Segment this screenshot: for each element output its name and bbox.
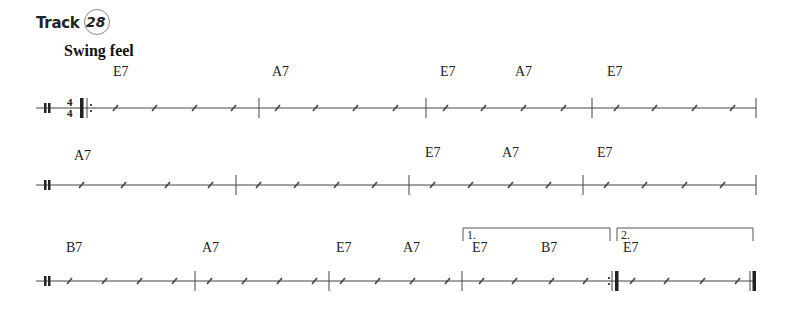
second-ending-bracket (617, 228, 753, 241)
final-barline-icon (753, 271, 757, 291)
first-ending-bracket (463, 228, 610, 241)
staff-system-1: 4 4 (36, 96, 756, 119)
time-sig-bottom: 4 (67, 107, 73, 119)
repeat-end-icon (615, 271, 619, 291)
staff-system-2 (36, 175, 756, 195)
repeat-start-icon (80, 98, 84, 118)
staff-system-3 (36, 228, 756, 291)
notation: 4 4 (0, 0, 793, 312)
